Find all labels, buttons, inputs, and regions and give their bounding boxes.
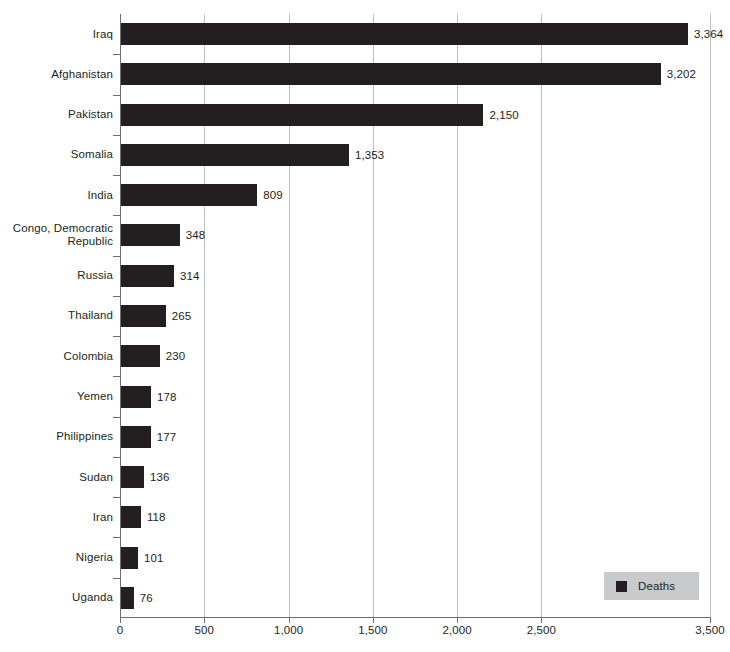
bar-container: 136 — [121, 466, 169, 488]
bar-container: 178 — [121, 386, 177, 408]
category-label: Colombia — [0, 350, 113, 363]
bar-value-label: 177 — [157, 431, 177, 443]
x-axis-tick-mark — [710, 618, 711, 623]
bar-row: Somalia1,353 — [0, 135, 730, 175]
bar — [121, 104, 483, 126]
category-label: Thailand — [0, 309, 113, 322]
bar-container: 76 — [121, 587, 153, 609]
x-axis-tick-label: 2,000 — [443, 624, 472, 636]
bar — [121, 305, 166, 327]
bar-row: Yemen178 — [0, 376, 730, 416]
bar-container: 101 — [121, 547, 164, 569]
bar — [121, 184, 257, 206]
x-axis-tick-label: 1,000 — [274, 624, 303, 636]
x-axis-tick-label: 3,500 — [695, 624, 724, 636]
bar-row: Sudan136 — [0, 457, 730, 497]
bar — [121, 426, 151, 448]
bar-container: 348 — [121, 224, 205, 246]
bar — [121, 224, 180, 246]
chart-legend: Deaths — [604, 572, 699, 600]
x-axis-tick-mark — [120, 618, 121, 623]
bar-row: Philippines177 — [0, 417, 730, 457]
category-label: Somalia — [0, 148, 113, 161]
bar-value-label: 230 — [166, 350, 186, 362]
bar-value-label: 1,353 — [355, 149, 384, 161]
category-label: Russia — [0, 269, 113, 282]
bar — [121, 265, 174, 287]
bar-value-label: 101 — [144, 552, 164, 564]
legend-label-deaths: Deaths — [638, 580, 675, 592]
category-label: Nigeria — [0, 551, 113, 564]
bar-container: 2,150 — [121, 104, 519, 126]
bar — [121, 466, 144, 488]
horizontal-bar-chart: Iraq3,364Afghanistan3,202Pakistan2,150So… — [0, 0, 730, 652]
bar-row: India809 — [0, 175, 730, 215]
bar-row: Iran118 — [0, 497, 730, 537]
bar-container: 177 — [121, 426, 176, 448]
bar-value-label: 3,202 — [667, 68, 696, 80]
bar-value-label: 2,150 — [489, 109, 518, 121]
bar — [121, 345, 160, 367]
bar-container: 3,202 — [121, 63, 696, 85]
bar-row: Colombia230 — [0, 336, 730, 376]
x-axis-tick-label: 0 — [117, 624, 124, 636]
bar-value-label: 314 — [180, 270, 200, 282]
x-axis-tick-mark — [289, 618, 290, 623]
bar-row: Thailand265 — [0, 296, 730, 336]
bar — [121, 63, 661, 85]
x-axis-tick-mark — [373, 618, 374, 623]
category-label: Uganda — [0, 591, 113, 604]
bar-container: 3,364 — [121, 23, 723, 45]
bar-value-label: 348 — [186, 229, 206, 241]
bar-container: 809 — [121, 184, 283, 206]
bar-value-label: 265 — [172, 310, 192, 322]
category-label: Yemen — [0, 390, 113, 403]
category-label: Sudan — [0, 471, 113, 484]
bar-container: 230 — [121, 345, 185, 367]
bar-value-label: 136 — [150, 471, 170, 483]
bar-value-label: 118 — [147, 511, 166, 523]
bar-container: 1,353 — [121, 144, 384, 166]
bar-value-label: 3,364 — [694, 28, 723, 40]
bar-value-label: 178 — [157, 391, 177, 403]
bar — [121, 506, 141, 528]
bar — [121, 144, 349, 166]
category-label: Pakistan — [0, 108, 113, 121]
bar-container: 265 — [121, 305, 191, 327]
bar — [121, 587, 134, 609]
bar — [121, 547, 138, 569]
bar-row: Afghanistan3,202 — [0, 54, 730, 94]
bar-row: Congo, Democratic Republic348 — [0, 215, 730, 255]
category-label: Iran — [0, 511, 113, 524]
x-axis-tick-mark — [457, 618, 458, 623]
x-axis-tick-label: 2,500 — [527, 624, 556, 636]
bar-row: Russia314 — [0, 256, 730, 296]
category-label: Congo, Democratic Republic — [0, 222, 113, 248]
bar-container: 118 — [121, 506, 166, 528]
bar-container: 314 — [121, 265, 199, 287]
category-label: Afghanistan — [0, 68, 113, 81]
category-label: Iraq — [0, 28, 113, 41]
bar-row: Iraq3,364 — [0, 14, 730, 54]
category-label: Philippines — [0, 430, 113, 443]
x-axis-tick-label: 1,500 — [358, 624, 387, 636]
bar — [121, 23, 688, 45]
bar-value-label: 76 — [140, 592, 153, 604]
x-axis-tick-mark — [541, 618, 542, 623]
x-axis-tick-mark — [204, 618, 205, 623]
legend-swatch-deaths — [616, 581, 627, 592]
bar — [121, 386, 151, 408]
bar-row: Pakistan2,150 — [0, 95, 730, 135]
bar-rows: Iraq3,364Afghanistan3,202Pakistan2,150So… — [0, 14, 730, 618]
bar-value-label: 809 — [263, 189, 283, 201]
x-axis-tick-label: 500 — [195, 624, 215, 636]
category-label: India — [0, 189, 113, 202]
